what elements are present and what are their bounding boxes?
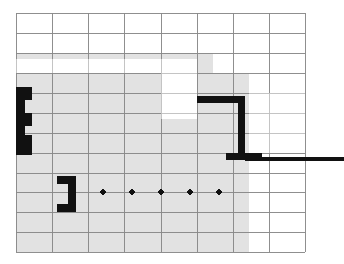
dot-3 xyxy=(158,189,163,194)
dot-5 xyxy=(216,189,221,194)
slab-fill-group xyxy=(16,53,249,252)
wall-left-column-cluster xyxy=(16,87,32,155)
floor-plan-drawing xyxy=(0,0,344,264)
void-right-bay xyxy=(249,93,305,153)
dot-4 xyxy=(187,189,192,194)
wall-vertical-pier xyxy=(238,96,245,153)
wall-top-horizontal-beam xyxy=(197,96,245,103)
wall-long-horizontal-rail xyxy=(245,157,344,161)
dot-1 xyxy=(100,189,105,194)
plan-canvas xyxy=(0,0,344,264)
dot-2 xyxy=(129,189,134,194)
